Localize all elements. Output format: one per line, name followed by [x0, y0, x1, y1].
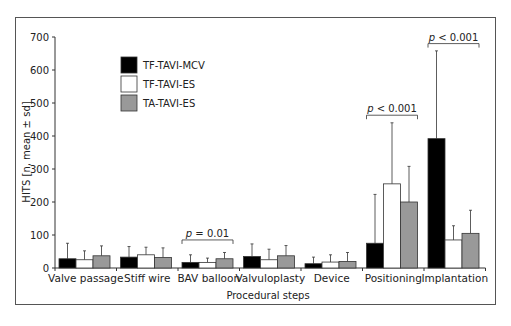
- x-category-label: Stiff wire: [124, 272, 170, 284]
- y-tick-label: 500: [30, 98, 49, 109]
- bar: [278, 256, 295, 268]
- bar: [339, 261, 356, 268]
- bar: [244, 256, 261, 268]
- x-category-label: Valvuloplasty: [235, 272, 305, 284]
- p-value-label: p = 0.01: [185, 228, 229, 239]
- x-category-label: BAV balloon: [177, 272, 240, 284]
- bar: [445, 240, 462, 268]
- bar: [305, 264, 322, 268]
- legend-label: TF-TAVI-MCV: [142, 60, 205, 71]
- p-value-label: p < 0.001: [428, 32, 479, 43]
- x-category-label: Device: [314, 272, 350, 284]
- bar: [155, 257, 172, 268]
- bar-chart: 0100200300400500600700 Valve passageStif…: [0, 0, 511, 326]
- bar: [462, 233, 479, 268]
- bar: [367, 243, 384, 268]
- y-axis: 0100200300400500600700: [30, 32, 55, 274]
- legend-label: TA-TAVI-ES: [142, 98, 195, 109]
- legend: TF-TAVI-MCVTF-TAVI-ESTA-TAVI-ES: [121, 57, 205, 111]
- legend-swatch: [121, 57, 137, 73]
- bar: [428, 139, 445, 268]
- y-axis-title: HITS [n, mean ± sd]: [21, 101, 32, 202]
- x-category-label: Positioning: [365, 272, 422, 284]
- y-tick-label: 600: [30, 65, 49, 76]
- bar: [76, 260, 93, 268]
- significance-bracket: [182, 240, 233, 244]
- y-tick-label: 200: [30, 197, 49, 208]
- bar: [59, 259, 76, 268]
- y-tick-label: 100: [30, 230, 49, 241]
- bar: [182, 262, 199, 268]
- significance-bracket: [428, 44, 479, 48]
- bar: [322, 262, 339, 268]
- bar: [121, 257, 138, 268]
- bar: [261, 260, 278, 268]
- bar: [93, 256, 110, 268]
- bar: [401, 202, 418, 268]
- bar: [216, 259, 233, 268]
- y-tick-label: 400: [30, 131, 49, 142]
- x-category-label: Valve passage: [48, 272, 123, 284]
- legend-swatch: [121, 95, 137, 111]
- x-axis: Valve passageStiff wireBAV balloonValvul…: [48, 268, 488, 284]
- bar: [138, 255, 155, 268]
- bar: [384, 184, 401, 268]
- legend-swatch: [121, 76, 137, 92]
- y-tick-label: 700: [30, 32, 49, 43]
- x-axis-title: Procedural steps: [226, 290, 309, 301]
- x-category-label: Implantation: [421, 272, 488, 284]
- significance-bracket: [367, 115, 418, 119]
- legend-label: TF-TAVI-ES: [142, 79, 195, 90]
- y-tick-label: 300: [30, 164, 49, 175]
- p-value-label: p < 0.001: [366, 103, 417, 114]
- bar: [199, 262, 216, 268]
